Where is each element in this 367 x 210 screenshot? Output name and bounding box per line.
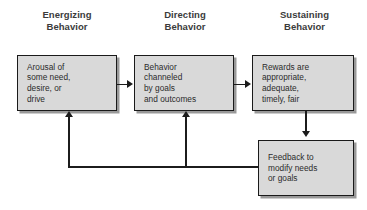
arrow-down-icon-rewards-to-feedback — [302, 131, 310, 137]
arrow-right-icon-behavior-to-rewards — [245, 80, 251, 88]
arrow-up-icon-feedback-to-behavior — [182, 111, 190, 117]
process-box-behavior: Behavior channeled by goals and outcomes — [134, 55, 234, 111]
connector-feedback-return-rail — [68, 166, 258, 168]
process-box-behavior-label: Behavior channeled by goals and outcomes — [135, 62, 200, 104]
process-box-feedback: Feedback to modify needs or goals — [258, 140, 354, 196]
column-heading-directing: Directing Behavior — [135, 9, 235, 32]
process-box-rewards-label: Rewards are appropriate, adequate, timel… — [253, 62, 313, 104]
arrow-up-icon-feedback-to-arousal — [65, 111, 73, 117]
process-box-arousal: Arousal of some need, desire, or drive — [17, 55, 117, 111]
process-box-arousal-label: Arousal of some need, desire, or drive — [18, 62, 74, 104]
column-heading-sustaining: Sustaining Behavior — [252, 9, 357, 32]
process-box-feedback-label: Feedback to modify needs or goals — [259, 152, 321, 184]
connector-feedback-to-arousal-line — [68, 116, 70, 167]
column-heading-energizing: Energizing Behavior — [17, 9, 117, 32]
connector-feedback-to-behavior-line — [185, 116, 187, 167]
motivation-process-diagram: Energizing Behavior Directing Behavior S… — [0, 0, 367, 210]
arrow-right-icon-arousal-to-behavior — [127, 80, 133, 88]
process-box-rewards: Rewards are appropriate, adequate, timel… — [252, 55, 354, 111]
